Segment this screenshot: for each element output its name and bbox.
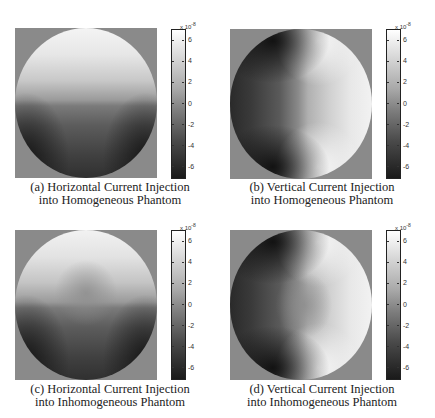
colorbar-tick-label: 0 [403,100,407,107]
colorbar-tick-label: -6 [403,364,409,371]
colorbar-tick-label: -2 [403,121,409,128]
colorbar-tick-mark [387,82,389,83]
colorbar-tick-label: 2 [188,279,192,286]
colorbar-tick-mark [182,103,184,104]
phantom-disk-c [15,230,157,380]
colorbar-tick-label: 4 [188,258,192,265]
colorbar-tick-mark [172,82,174,83]
colorbar-tick-mark [387,103,389,104]
colorbar-tick-mark [397,40,399,41]
colorbar-tick-mark [397,241,399,242]
colorbar-tick-mark [172,241,174,242]
colorbar-tick-mark [182,304,184,305]
colorbar-tick-label: 4 [403,57,407,64]
colorbar-tick-mark [172,103,174,104]
colorbar-tick-mark [387,145,389,146]
colorbar-tick-mark [397,166,399,167]
colorbar-tick-mark [172,145,174,146]
colorbar-tick-label: 4 [188,57,192,64]
phantom-disk-d [230,230,372,380]
caption-a: (a) Horizontal Current Injection into Ho… [10,181,210,207]
colorbar-tick-mark [387,61,389,62]
colorbar-tick-mark [182,241,184,242]
heatmap-c [15,230,157,380]
colorbar-tick-mark [397,304,399,305]
colorbar-tick-mark [397,283,399,284]
colorbar-tick-mark [387,325,389,326]
colorbar-tick-mark [387,262,389,263]
colorbar-tick-mark [397,145,399,146]
colorbar-tick-mark [182,145,184,146]
colorbar-tick-mark [397,325,399,326]
colorbar-tick-mark [397,61,399,62]
phantom-disk-a [15,28,157,178]
colorbar-tick-mark [172,304,174,305]
colorbar-tick-label: 0 [188,100,192,107]
colorbar-tick-mark [182,325,184,326]
colorbar-tick-mark [172,367,174,368]
colorbar-tick-mark [387,346,389,347]
heatmap-d [230,230,372,380]
colorbar-tick-mark [172,40,174,41]
colorbar-tick-mark [182,124,184,125]
colorbar-tick-label: 6 [188,36,192,43]
colorbar-tick-mark [172,166,174,167]
heatmap-b [230,29,372,179]
colorbar-tick-mark [182,82,184,83]
colorbar-tick-mark [397,82,399,83]
colorbar-tick-mark [387,283,389,284]
caption-c: (c) Horizontal Current Injection into In… [10,383,210,409]
colorbar-tick-mark [397,103,399,104]
colorbar-tick-mark [387,304,389,305]
colorbar-tick-label: 6 [403,237,407,244]
colorbar-tick-label: -4 [403,343,409,350]
caption-d: (d) Vertical Current Injection into Inho… [222,383,422,409]
colorbar-c [171,230,186,380]
colorbar-tick-mark [387,367,389,368]
colorbar-tick-label: 0 [403,301,407,308]
colorbar-tick-label: -6 [403,163,409,170]
colorbar-a [171,29,186,179]
colorbar-b [386,29,401,179]
colorbar-tick-mark [387,241,389,242]
colorbar-tick-label: -6 [188,364,194,371]
colorbar-tick-label: 0 [188,301,192,308]
colorbar-tick-mark [182,61,184,62]
colorbar-tick-mark [387,124,389,125]
colorbar-tick-label: 2 [403,78,407,85]
colorbar-tick-mark [172,283,174,284]
caption-b: (b) Vertical Current Injection into Homo… [222,181,422,207]
colorbar-tick-mark [397,124,399,125]
colorbar-tick-label: -2 [188,322,194,329]
colorbar-tick-mark [182,262,184,263]
colorbar-tick-label: -4 [188,343,194,350]
colorbar-tick-label: 6 [403,36,407,43]
colorbar-tick-mark [397,262,399,263]
colorbar-tick-mark [172,346,174,347]
colorbar-tick-label: -2 [188,121,194,128]
colorbar-tick-mark [172,124,174,125]
colorbar-tick-label: -2 [403,322,409,329]
colorbar-tick-mark [387,40,389,41]
colorbar-tick-label: -4 [188,142,194,149]
colorbar-d [386,230,401,380]
colorbar-tick-mark [182,346,184,347]
colorbar-tick-mark [172,262,174,263]
colorbar-tick-label: -6 [188,163,194,170]
colorbar-tick-label: 2 [188,78,192,85]
colorbar-tick-mark [397,346,399,347]
colorbar-tick-mark [182,40,184,41]
colorbar-tick-mark [182,367,184,368]
colorbar-tick-mark [172,325,174,326]
colorbar-tick-label: 4 [403,258,407,265]
heatmap-a [15,28,157,178]
phantom-disk-b [230,29,372,179]
colorbar-tick-mark [182,283,184,284]
colorbar-tick-label: 2 [403,279,407,286]
colorbar-tick-mark [387,166,389,167]
colorbar-tick-mark [182,166,184,167]
colorbar-tick-mark [397,367,399,368]
colorbar-tick-label: 6 [188,237,192,244]
colorbar-tick-label: -4 [403,142,409,149]
colorbar-tick-mark [172,61,174,62]
